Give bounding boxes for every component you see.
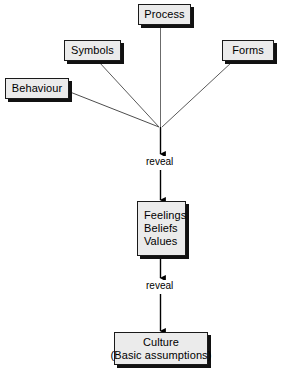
node-forms-label: Forms (232, 44, 264, 57)
node-process[interactable]: Process (138, 4, 191, 25)
edge-symbols-junction (99, 62, 159, 127)
node-process-label: Process (144, 8, 184, 21)
edge-label-reveal-2: reveal (144, 280, 175, 292)
edge-label-reveal-1: reveal (144, 156, 175, 168)
node-forms[interactable]: Forms (222, 40, 274, 61)
node-feelings[interactable]: Feelings Beliefs Values (137, 201, 186, 256)
node-feelings-label-line3: Values (138, 235, 185, 248)
edge-forms-junction (162, 62, 232, 127)
node-behaviour-label: Behaviour (12, 82, 62, 95)
node-culture-label-line2: (Basic assumptions) (111, 349, 212, 362)
edge-behaviour-junction (70, 92, 159, 127)
node-culture[interactable]: Culture (Basic assumptions) (114, 332, 208, 365)
culture-levels-diagram: Process Symbols Forms Behaviour Feelings… (0, 0, 288, 372)
node-symbols-label: Symbols (71, 44, 114, 57)
node-feelings-label-line2: Beliefs (138, 222, 185, 235)
node-symbols[interactable]: Symbols (64, 40, 121, 61)
node-feelings-label-line1: Feelings (138, 209, 185, 222)
node-culture-label-line1: Culture (143, 336, 179, 349)
node-behaviour[interactable]: Behaviour (5, 78, 69, 99)
